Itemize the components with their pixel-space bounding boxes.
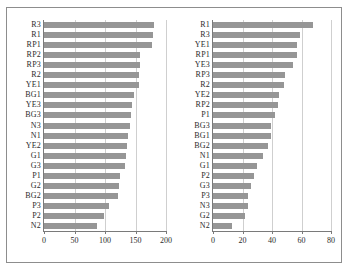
bar-row: G3: [213, 183, 331, 189]
category-label: G1: [31, 152, 41, 160]
bar: [213, 52, 297, 58]
category-label: R3: [31, 21, 41, 29]
x-axis-ticks: 020406080: [213, 231, 331, 251]
bar: [44, 22, 154, 28]
category-label: P1: [201, 111, 210, 119]
bar: [44, 223, 97, 229]
bar: [44, 163, 125, 169]
category-label: YE2: [195, 91, 210, 99]
category-label: RP2: [196, 101, 210, 109]
category-label: R2: [200, 81, 210, 89]
tick-mark: [75, 231, 76, 234]
category-label: RP3: [196, 71, 210, 79]
tick-label: 20: [239, 236, 247, 245]
bar-row: RP3: [213, 72, 331, 78]
category-label: N2: [200, 222, 210, 230]
bar-row: BG2: [213, 143, 331, 149]
bar: [44, 62, 140, 68]
bar: [213, 163, 257, 169]
tick-mark: [272, 231, 273, 234]
category-label: RP3: [27, 61, 41, 69]
tick-label: 0: [42, 236, 46, 245]
bar-row: YE2: [44, 143, 166, 149]
category-label: G1: [200, 162, 210, 170]
bar-row: N1: [213, 153, 331, 159]
bar-row: R3: [44, 22, 166, 28]
bar-row: BG1: [213, 133, 331, 139]
bar: [44, 102, 132, 108]
bar: [213, 123, 271, 129]
bar: [213, 62, 293, 68]
tick-mark: [44, 231, 45, 234]
tick-mark: [136, 231, 137, 234]
category-label: YE1: [26, 81, 41, 89]
bar: [44, 123, 130, 129]
tick-label: 200: [160, 236, 172, 245]
category-label: YE3: [195, 61, 210, 69]
bar-row: G3: [44, 163, 166, 169]
category-label: RP1: [27, 41, 41, 49]
category-label: BG1: [25, 91, 41, 99]
category-label: RP2: [27, 51, 41, 59]
bar: [213, 32, 300, 38]
category-label: RP1: [196, 51, 210, 59]
bar-row: R3: [213, 32, 331, 38]
bar-row: YE2: [213, 92, 331, 98]
bar-row: YE3: [213, 62, 331, 68]
bar-row: P2: [44, 213, 166, 219]
category-label: BG1: [194, 132, 210, 140]
category-label: R1: [31, 31, 41, 39]
bar-row: RP1: [213, 52, 331, 58]
category-label: P1: [32, 172, 41, 180]
bar-row: RP2: [44, 52, 166, 58]
bar: [213, 72, 285, 78]
tick-label: 80: [327, 236, 335, 245]
bar-row: G2: [44, 183, 166, 189]
bar: [213, 22, 313, 28]
bar: [44, 82, 139, 88]
bar-row: BG1: [44, 92, 166, 98]
tick-mark: [331, 231, 332, 234]
bar: [213, 183, 251, 189]
tick-mark: [213, 231, 214, 234]
bar: [44, 72, 139, 78]
bar: [44, 112, 131, 118]
bar-row: YE1: [44, 82, 166, 88]
bar-row: G1: [44, 153, 166, 159]
bar-row: R2: [44, 72, 166, 78]
category-label: N1: [31, 132, 41, 140]
bar: [213, 213, 245, 219]
bar: [44, 32, 153, 38]
bar-row: BG2: [44, 193, 166, 199]
category-label: YE2: [26, 142, 41, 150]
bar: [213, 173, 254, 179]
bar: [44, 42, 152, 48]
bar: [213, 203, 248, 209]
bar: [213, 112, 275, 118]
bar: [213, 102, 278, 108]
bar-row: BG3: [213, 123, 331, 129]
bar-row: P3: [44, 203, 166, 209]
tick-mark: [243, 231, 244, 234]
category-label: P3: [32, 202, 41, 210]
bar-row: N3: [44, 123, 166, 129]
bar: [44, 143, 127, 149]
category-label: G2: [31, 182, 41, 190]
category-label: N3: [200, 202, 210, 210]
bar: [44, 193, 118, 199]
bar-row: BG3: [44, 112, 166, 118]
category-label: N1: [200, 152, 210, 160]
category-label: YE1: [195, 41, 210, 49]
bar: [44, 203, 109, 209]
bar-row: P1: [213, 112, 331, 118]
bar-row: G2: [213, 213, 331, 219]
bar-row: RP3: [44, 62, 166, 68]
category-label: G3: [31, 162, 41, 170]
tick-label: 100: [99, 236, 111, 245]
bar: [213, 193, 248, 199]
bar-row: YE1: [213, 42, 331, 48]
bar-row: R1: [44, 32, 166, 38]
bar: [213, 42, 297, 48]
tick-mark: [105, 231, 106, 234]
category-label: R2: [31, 71, 41, 79]
